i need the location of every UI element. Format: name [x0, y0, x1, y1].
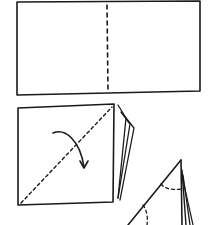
step-2-folded-stack	[18, 104, 134, 205]
diagram-canvas: Paper folding steps	[0, 0, 212, 225]
step-1-rectangle	[17, 1, 200, 95]
step-3-triangle	[128, 160, 193, 225]
upper-arc-dashed-line	[161, 184, 181, 189]
lower-arc-dashed-line	[143, 205, 147, 225]
center-fold-dashed-line	[107, 5, 108, 92]
fold-diagram	[0, 0, 212, 225]
